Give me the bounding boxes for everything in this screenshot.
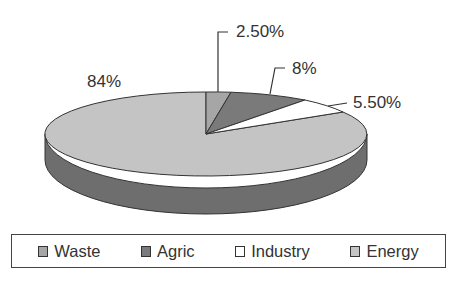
legend-item-energy[interactable]: Energy xyxy=(350,242,418,261)
chart-legend: Waste Agric Industry Energy xyxy=(11,234,446,268)
legend-item-waste[interactable]: Waste xyxy=(38,242,100,261)
leader-industry xyxy=(328,103,347,106)
legend-swatch-energy xyxy=(350,246,360,257)
legend-item-agric[interactable]: Agric xyxy=(141,242,195,261)
label-energy: 84% xyxy=(87,72,121,91)
label-industry: 5.50% xyxy=(353,93,401,112)
legend-item-industry[interactable]: Industry xyxy=(235,242,310,261)
legend-label: Energy xyxy=(366,242,418,261)
legend-swatch-agric xyxy=(141,246,151,257)
label-waste: 2.50% xyxy=(236,22,284,41)
label-agric: 8% xyxy=(292,59,317,78)
legend-label: Waste xyxy=(54,242,100,261)
leader-waste xyxy=(218,32,228,92)
legend-label: Industry xyxy=(251,242,310,261)
legend-label: Agric xyxy=(157,242,195,261)
leader-agric xyxy=(270,68,285,94)
legend-swatch-waste xyxy=(38,246,48,257)
legend-swatch-industry xyxy=(235,246,245,257)
